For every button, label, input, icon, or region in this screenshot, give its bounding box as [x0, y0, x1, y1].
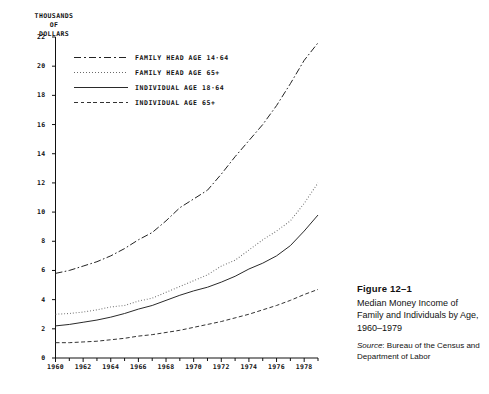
series-line-family-head-65-plus: [56, 183, 319, 314]
y-tick-22: 22: [30, 33, 46, 41]
y-tick-14: 14: [30, 150, 46, 158]
legend-item-individual-18-64: INDIVIDUAL AGE 18·64: [74, 80, 229, 95]
figure-title: Median Money Income of Family and Indivi…: [357, 297, 485, 335]
y-tick-16: 16: [30, 121, 46, 129]
chart-legend: FAMILY HEAD AGE 14·64FAMILY HEAD AGE 65+…: [74, 50, 229, 110]
legend-label-family-head-65-plus: FAMILY HEAD AGE 65+: [135, 69, 220, 77]
x-tick-1978: 1978: [291, 363, 317, 371]
legend-item-family-head-65-plus: FAMILY HEAD AGE 65+: [74, 65, 229, 80]
x-tick-1974: 1974: [236, 363, 262, 371]
x-tick-1970: 1970: [181, 363, 207, 371]
legend-label-individual-65-plus: INDIVIDUAL AGE 65+: [135, 99, 215, 107]
x-tick-1972: 1972: [208, 363, 234, 371]
x-tick-1968: 1968: [153, 363, 179, 371]
legend-item-family-head-14-64: FAMILY HEAD AGE 14·64: [74, 50, 229, 65]
y-tick-12: 12: [30, 179, 46, 187]
legend-swatch-individual-18-64-icon: [74, 87, 128, 88]
y-tick-10: 10: [30, 208, 46, 216]
legend-label-family-head-14-64: FAMILY HEAD AGE 14·64: [135, 54, 229, 62]
y-tick-20: 20: [30, 62, 46, 70]
y-tick-2: 2: [30, 325, 46, 333]
x-tick-1964: 1964: [98, 363, 124, 371]
legend-swatch-family-head-65-plus-icon: [74, 72, 128, 73]
legend-label-individual-18-64: INDIVIDUAL AGE 18·64: [135, 84, 224, 92]
x-tick-1962: 1962: [70, 363, 96, 371]
source-label: Source: [357, 341, 382, 350]
figure-container: THOUSANDS OF DOLLARS 0246810121416182022…: [0, 0, 489, 394]
x-tick-1960: 1960: [43, 363, 69, 371]
x-tick-1966: 1966: [125, 363, 151, 371]
series-line-individual-65-plus: [56, 289, 319, 342]
legend-swatch-family-head-14-64-icon: [74, 57, 128, 58]
series-line-individual-18-64: [56, 215, 319, 326]
figure-number: Figure 12–1: [357, 283, 485, 296]
figure-source: Source: Bureau of the Census and Departm…: [357, 340, 485, 362]
y-tick-18: 18: [30, 91, 46, 99]
y-tick-4: 4: [30, 296, 46, 304]
legend-item-individual-65-plus: INDIVIDUAL AGE 65+: [74, 95, 229, 110]
y-tick-6: 6: [30, 266, 46, 274]
figure-caption: Figure 12–1 Median Money Income of Famil…: [357, 283, 485, 362]
y-tick-0: 0: [30, 354, 46, 362]
legend-swatch-individual-65-plus-icon: [74, 102, 128, 103]
y-tick-8: 8: [30, 237, 46, 245]
x-tick-1976: 1976: [264, 363, 290, 371]
